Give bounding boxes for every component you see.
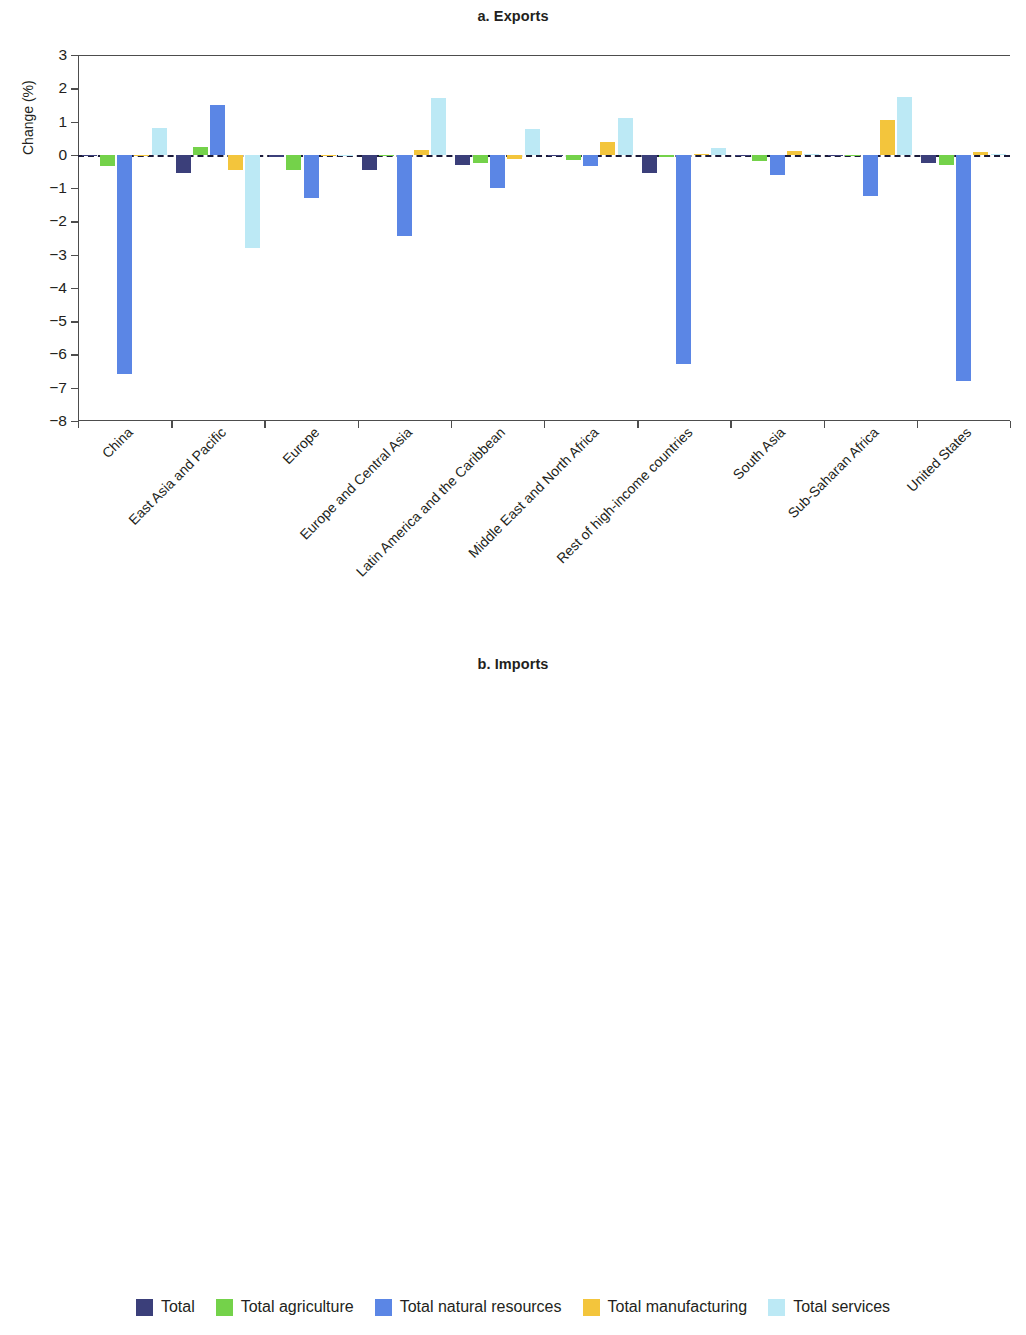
y-tick-label: 3	[58, 46, 67, 64]
bar	[338, 155, 353, 156]
legend-item: Total natural resources	[375, 1298, 562, 1316]
x-axis-label-text: Europe	[279, 424, 322, 467]
bar-slot	[490, 55, 505, 421]
bar-slot	[600, 55, 615, 421]
bar-group	[730, 55, 823, 421]
bar	[525, 129, 540, 155]
bar-slot	[583, 55, 598, 421]
bar	[100, 155, 115, 167]
bar-group-bars	[544, 55, 637, 421]
bar-slot	[397, 55, 412, 421]
bar-group	[451, 55, 544, 421]
bar-group	[917, 55, 1010, 421]
panel-exports: a. Exports Change (%) 3210−1−2−3−4−5−6−7…	[0, 0, 1026, 640]
panel-a-y-axis-label: Change (%)	[20, 80, 36, 155]
legend-item: Total manufacturing	[583, 1298, 748, 1316]
bar	[117, 155, 132, 375]
bar-slot	[659, 55, 674, 421]
x-tick	[1010, 421, 1011, 428]
x-axis-label-text: East Asia and Pacific	[125, 424, 229, 528]
figure-trade-change: a. Exports Change (%) 3210−1−2−3−4−5−6−7…	[0, 0, 1026, 1335]
bar	[711, 148, 726, 155]
bar-slot	[507, 55, 522, 421]
bar-slot	[117, 55, 132, 421]
bar-slot	[152, 55, 167, 421]
bar-slot	[82, 55, 97, 421]
bar-slot	[828, 55, 843, 421]
chart-legend: TotalTotal agricultureTotal natural reso…	[0, 1298, 1026, 1316]
bar	[845, 155, 860, 156]
x-axis-label-text: South Asia	[730, 424, 789, 483]
bar	[379, 155, 394, 156]
bar	[362, 155, 377, 170]
legend-item: Total	[136, 1298, 195, 1316]
bar-slot	[134, 55, 149, 421]
legend-label: Total manufacturing	[608, 1298, 748, 1316]
y-tick	[71, 221, 78, 222]
bar	[973, 152, 988, 155]
bar-group	[824, 55, 917, 421]
bar	[921, 155, 936, 163]
bar-slot	[473, 55, 488, 421]
legend-label: Total services	[793, 1298, 890, 1316]
bar-slot	[642, 55, 657, 421]
bar-slot	[711, 55, 726, 421]
bar-slot	[100, 55, 115, 421]
bar-slot	[193, 55, 208, 421]
bar	[304, 155, 319, 198]
bar-slot	[321, 55, 336, 421]
y-tick	[71, 388, 78, 389]
bar-group-bars	[730, 55, 823, 421]
bar-slot	[566, 55, 581, 421]
bar-slot	[973, 55, 988, 421]
bar	[828, 155, 843, 157]
y-tick	[71, 354, 78, 355]
bar-group	[358, 55, 451, 421]
bar	[210, 105, 225, 155]
bar	[134, 155, 149, 156]
bar	[286, 155, 301, 170]
bar-slot	[618, 55, 633, 421]
y-tick	[71, 188, 78, 189]
y-tick	[71, 55, 78, 56]
bar	[269, 155, 284, 158]
y-tick-label: −3	[49, 246, 67, 264]
bar	[397, 155, 412, 237]
y-tick-label: 0	[58, 146, 67, 164]
bar	[566, 155, 581, 160]
bar-slot	[880, 55, 895, 421]
bar-slot	[921, 55, 936, 421]
bar-group-bars	[78, 55, 171, 421]
y-tick	[71, 321, 78, 322]
bar	[228, 155, 243, 170]
y-tick-label: −7	[49, 379, 67, 397]
bar-slot	[210, 55, 225, 421]
x-axis-label-text: China	[99, 424, 136, 461]
panel-a-x-axis-labels: ChinaEast Asia and PacificEuropeEurope a…	[78, 424, 1010, 614]
bar-slot	[548, 55, 563, 421]
bar-slot	[338, 55, 353, 421]
bar-slot	[228, 55, 243, 421]
y-tick-label: 1	[58, 113, 67, 131]
bar	[82, 155, 97, 156]
bar	[431, 98, 446, 155]
bar	[770, 155, 785, 175]
bar	[642, 155, 657, 173]
legend-item: Total services	[768, 1298, 890, 1316]
bar-slot	[455, 55, 470, 421]
bar	[897, 97, 912, 155]
bar-slot	[863, 55, 878, 421]
legend-swatch-icon	[583, 1299, 600, 1316]
bar	[176, 155, 191, 173]
y-tick-label: −5	[49, 312, 67, 330]
bar-slot	[245, 55, 260, 421]
bar	[548, 155, 563, 156]
bar-slot	[845, 55, 860, 421]
bar	[991, 154, 1006, 155]
bar-slot	[939, 55, 954, 421]
bar	[659, 155, 674, 157]
legend-label: Total natural resources	[400, 1298, 562, 1316]
y-tick	[71, 288, 78, 289]
bar	[863, 155, 878, 197]
bar-group-bars	[358, 55, 451, 421]
